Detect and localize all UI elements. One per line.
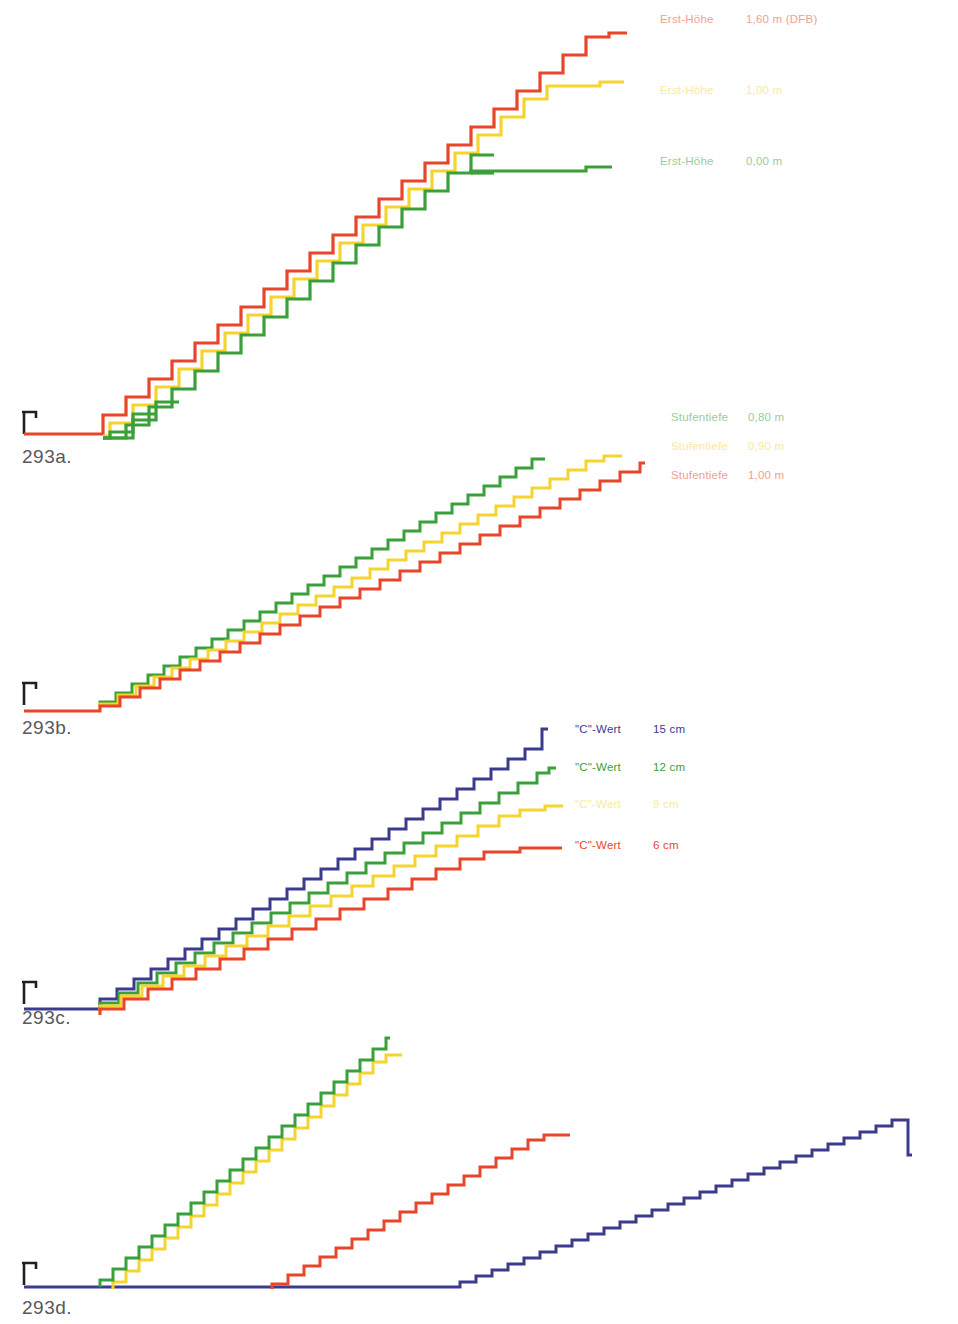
series-line-lauflinie-rot (272, 1135, 570, 1289)
series-line-c-wert-6 (100, 848, 562, 1015)
legend-label: Erst-Höhe (660, 84, 714, 96)
legend-value: 0,90 m (748, 440, 784, 452)
legend-value: 12 cm (653, 761, 685, 773)
panel-293a: Erst-Höhe 1,60 m (DFB) Erst-Höhe 1,00 m … (0, 0, 958, 450)
legend-label: Erst-Höhe (660, 155, 714, 167)
panel-293b: Stufentiefe 0,80 m Stufentiefe 0,90 m St… (0, 430, 958, 730)
panel-293d: 293d. (0, 1010, 958, 1324)
legend-value: 9 cm (653, 798, 679, 810)
legend-label: Stufentiefe (671, 440, 728, 452)
legend-293c: "C"-Wert 15 cm "C"-Wert 12 cm "C"-Wert 9… (0, 710, 958, 870)
legend-label: Erst-Höhe (660, 13, 714, 25)
panel-293d-drawing (0, 1010, 958, 1324)
legend-label: "C"-Wert (575, 761, 621, 773)
legend-value: 0,00 m (746, 155, 782, 167)
series-line-lauflinie-gruen (100, 1038, 390, 1287)
legend-label: "C"-Wert (575, 723, 621, 735)
series-line-lauflinie-blau (24, 1120, 912, 1287)
legend-value: 6 cm (653, 839, 679, 851)
legend-293a: Erst-Höhe 1,60 m (DFB) Erst-Höhe 1,00 m … (0, 0, 958, 200)
legend-label: Stufentiefe (671, 411, 728, 423)
series-line-erst-hoehe-000-run (103, 167, 612, 438)
datum-marker-icon (22, 1263, 36, 1285)
legend-value: 15 cm (653, 723, 685, 735)
figure-page: Erst-Höhe 1,60 m (DFB) Erst-Höhe 1,00 m … (0, 0, 958, 1324)
legend-label: "C"-Wert (575, 798, 621, 810)
datum-marker-icon (22, 683, 36, 705)
legend-label: Stufentiefe (671, 469, 728, 481)
legend-293b: Stufentiefe 0,80 m Stufentiefe 0,90 m St… (0, 430, 958, 520)
legend-value: 1,00 m (746, 84, 782, 96)
datum-marker-icon (22, 982, 36, 1004)
series-line-lauflinie-gelb (113, 1055, 402, 1289)
legend-label: "C"-Wert (575, 839, 621, 851)
legend-value: 1,00 m (748, 469, 784, 481)
legend-value: 0,80 m (748, 411, 784, 423)
panel-293c: "C"-Wert 15 cm "C"-Wert 12 cm "C"-Wert 9… (0, 710, 958, 1020)
legend-value: 1,60 m (DFB) (746, 13, 817, 25)
figure-caption-293d: 293d. (22, 1297, 72, 1319)
